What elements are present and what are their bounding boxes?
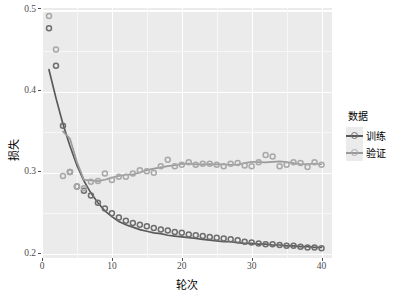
y-tick-mark-0.2 <box>38 253 41 254</box>
data-point <box>74 184 79 189</box>
data-point <box>158 164 163 169</box>
data-point <box>130 171 135 176</box>
data-point <box>228 161 233 166</box>
data-point <box>130 221 135 226</box>
data-point <box>88 193 93 198</box>
data-point <box>158 227 163 232</box>
data-point <box>165 228 170 233</box>
data-point <box>67 169 72 174</box>
data-point <box>221 164 226 169</box>
x-tick-label-20: 20 <box>167 262 197 272</box>
plot-canvas <box>42 8 332 258</box>
y-tick-label-0.5: 0.5 <box>0 5 36 15</box>
data-point <box>179 230 184 235</box>
x-tick-label-0: 0 <box>27 262 57 272</box>
data-point <box>298 161 303 166</box>
data-point <box>102 171 107 176</box>
plot-panel <box>42 8 332 258</box>
data-point <box>235 161 240 166</box>
legend-label-validation: 验证 <box>366 145 386 160</box>
legend: 数据 训练 验证 <box>346 108 404 161</box>
data-point <box>284 162 289 167</box>
data-point <box>214 235 219 240</box>
data-point <box>123 174 128 179</box>
data-point <box>263 152 268 157</box>
data-point <box>193 233 198 238</box>
data-point <box>60 174 65 179</box>
data-point <box>116 215 121 220</box>
data-point <box>186 232 191 237</box>
data-point <box>277 164 282 169</box>
y-tick-label-0.3: 0.3 <box>0 167 36 177</box>
x-tick-label-10: 10 <box>97 262 127 272</box>
data-point <box>200 234 205 239</box>
data-point <box>249 164 254 169</box>
data-point <box>207 234 212 239</box>
trend-line-训练 <box>49 70 322 248</box>
x-tick-mark-0 <box>42 258 43 261</box>
x-tick-label-30: 30 <box>237 262 267 272</box>
data-point <box>109 211 114 216</box>
x-tick-mark-10 <box>112 258 113 261</box>
data-point <box>165 157 170 162</box>
data-point <box>228 237 233 242</box>
data-point <box>46 26 51 31</box>
series-训练 <box>46 26 324 251</box>
x-tick-mark-20 <box>182 258 183 261</box>
data-point <box>172 230 177 235</box>
data-point <box>151 225 156 230</box>
legend-label-train: 训练 <box>366 128 386 143</box>
data-point <box>46 14 51 19</box>
data-point <box>151 170 156 175</box>
y-tick-mark-0.4 <box>38 90 41 91</box>
data-point <box>305 165 310 170</box>
data-point <box>270 154 275 159</box>
data-point <box>235 238 240 243</box>
y-tick-mark-0.5 <box>38 8 41 9</box>
data-point <box>242 163 247 168</box>
data-point <box>53 63 58 68</box>
legend-key-validation-icon <box>346 144 363 161</box>
y-axis-label: 损失 <box>5 139 21 161</box>
data-point <box>186 160 191 165</box>
data-point <box>137 222 142 227</box>
data-point <box>221 236 226 241</box>
data-point <box>291 160 296 165</box>
x-tick-mark-30 <box>252 258 253 261</box>
legend-key-train-icon <box>346 127 363 144</box>
data-point <box>172 164 177 169</box>
y-tick-label-0.2: 0.2 <box>0 249 36 259</box>
x-tick-label-40: 40 <box>307 262 337 272</box>
data-point <box>312 160 317 165</box>
data-point <box>53 47 58 52</box>
data-point <box>242 239 247 244</box>
legend-item-validation[interactable]: 验证 <box>346 144 404 161</box>
legend-item-train[interactable]: 训练 <box>346 127 404 144</box>
data-point <box>123 218 128 223</box>
y-tick-mark-0.3 <box>38 171 41 172</box>
data-point <box>109 178 114 183</box>
legend-title: 数据 <box>348 108 404 123</box>
data-point <box>137 168 142 173</box>
y-tick-label-0.4: 0.4 <box>0 86 36 96</box>
data-point <box>102 206 107 211</box>
chart-root: 损失 0.5 0.4 0.3 0.2 0 10 20 30 40 轮次 数据 训… <box>0 0 406 299</box>
x-tick-mark-40 <box>322 258 323 261</box>
data-point <box>144 224 149 229</box>
x-axis-label: 轮次 <box>42 276 332 292</box>
data-point <box>88 179 93 184</box>
